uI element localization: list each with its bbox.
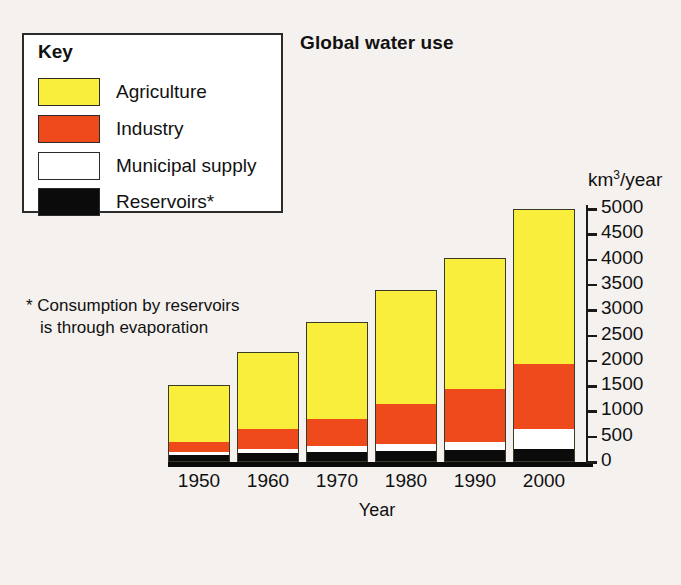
bars-container xyxy=(168,209,586,462)
x-axis-tick-label: 2000 xyxy=(509,470,579,492)
stacked-bar[interactable] xyxy=(168,385,230,462)
x-axis-tick-label: 1980 xyxy=(371,470,441,492)
legend-swatch-reservoirs xyxy=(38,188,100,216)
y-axis-unit-label: km3/year xyxy=(588,168,662,191)
x-axis-title: Year xyxy=(168,500,586,521)
y-axis-tick-mark xyxy=(586,436,597,439)
bar-segment-industry xyxy=(514,364,574,429)
y-axis-tick-mark xyxy=(586,259,597,262)
bar-segment-municipal-supply xyxy=(514,429,574,449)
bar-segment-municipal-supply xyxy=(376,444,436,451)
bar-segment-reservoirs xyxy=(307,452,367,461)
y-axis-tick-mark xyxy=(586,208,597,211)
y-axis-tick-label: 1000 xyxy=(601,398,643,420)
y-axis-tick-label: 5000 xyxy=(601,196,643,218)
y-axis-tick-mark xyxy=(586,284,597,287)
x-axis-tick-label: 1950 xyxy=(164,470,234,492)
legend-label-agriculture: Agriculture xyxy=(116,81,207,103)
plot-area xyxy=(168,205,586,467)
bar-segment-reservoirs xyxy=(514,449,574,461)
legend-item-agriculture: Agriculture xyxy=(38,77,207,107)
bar-segment-industry xyxy=(445,389,505,442)
x-axis-baseline xyxy=(168,462,593,467)
y-axis-tick-label: 2000 xyxy=(601,348,643,370)
stacked-bar[interactable] xyxy=(306,322,368,462)
y-axis-tick-mark xyxy=(586,410,597,413)
y-axis-tick-mark xyxy=(586,335,597,338)
y-axis-tick-label: 0 xyxy=(601,449,612,471)
y-axis-tick-mark xyxy=(586,309,597,312)
x-axis-tick-label: 1960 xyxy=(233,470,303,492)
legend-item-industry: Industry xyxy=(38,114,184,144)
legend-item-municipal-supply: Municipal supply xyxy=(38,151,256,181)
y-axis-tick-label: 2500 xyxy=(601,323,643,345)
bar-segment-reservoirs xyxy=(169,455,229,461)
chart-title: Global water use xyxy=(300,32,454,54)
stacked-bar[interactable] xyxy=(444,258,506,462)
bar-segment-industry xyxy=(238,429,298,449)
bar-segment-industry xyxy=(376,404,436,444)
chart-figure: Global water use Key Agriculture Industr… xyxy=(0,0,681,585)
y-axis-tick-mark xyxy=(586,233,597,236)
y-axis-line xyxy=(586,205,588,462)
legend-swatch-agriculture xyxy=(38,78,100,106)
stacked-bar[interactable] xyxy=(375,290,437,462)
y-axis-tick-label: 3500 xyxy=(601,272,643,294)
y-axis-tick-mark xyxy=(586,360,597,363)
bar-segment-industry xyxy=(307,419,367,446)
bar-segment-reservoirs xyxy=(445,450,505,461)
stacked-bar[interactable] xyxy=(237,352,299,462)
legend-label-industry: Industry xyxy=(116,118,184,140)
stacked-bar[interactable] xyxy=(513,209,575,462)
legend-swatch-industry xyxy=(38,115,100,143)
legend-label-municipal-supply: Municipal supply xyxy=(116,155,256,177)
y-axis-tick-label: 1500 xyxy=(601,373,643,395)
legend-title: Key xyxy=(38,41,73,63)
y-axis-tick-label: 4500 xyxy=(601,221,643,243)
y-axis-tick-label: 500 xyxy=(601,424,633,446)
bar-segment-reservoirs xyxy=(238,453,298,461)
y-axis-tick-mark xyxy=(586,461,597,464)
legend-swatch-municipal-supply xyxy=(38,152,100,180)
bar-segment-municipal-supply xyxy=(445,442,505,450)
y-axis: 0500100015002000250030003500400045005000 xyxy=(586,205,681,467)
bar-segment-reservoirs xyxy=(376,451,436,461)
y-axis-tick-label: 3000 xyxy=(601,297,643,319)
y-axis-tick-label: 4000 xyxy=(601,247,643,269)
x-axis-tick-label: 1970 xyxy=(302,470,372,492)
x-axis-tick-label: 1990 xyxy=(440,470,510,492)
x-axis: Year 195019601970198019902000 xyxy=(168,470,598,530)
y-axis-tick-mark xyxy=(586,385,597,388)
bar-segment-industry xyxy=(169,442,229,452)
legend-box: Key Agriculture Industry Municipal suppl… xyxy=(22,33,283,213)
